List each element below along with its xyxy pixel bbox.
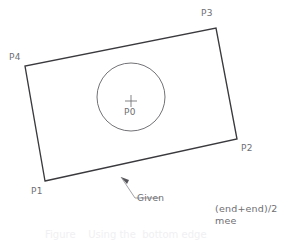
formula-note-line2: mee	[215, 215, 237, 226]
point-label-p2: P2	[241, 143, 253, 154]
given-annotation-label: Given	[137, 193, 164, 204]
point-label-p1: P1	[31, 186, 43, 197]
point-label-p3: P3	[201, 8, 213, 19]
point-label-p4: P4	[9, 52, 21, 63]
point-label-p0: P0	[124, 107, 136, 118]
figure-canvas: P4 P3 P2 P1 P0 Given (end+end)/2mee Figu…	[0, 0, 297, 240]
formula-note: (end+end)/2mee	[215, 203, 278, 227]
formula-note-line1: (end+end)/2	[215, 203, 278, 214]
figure-caption: Figure Using the bottom edge	[45, 229, 207, 240]
